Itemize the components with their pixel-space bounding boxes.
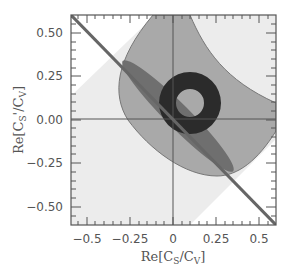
- x-axis-label: Re[CS/CV]: [141, 249, 206, 266]
- x-tick-label: −0.5: [72, 232, 101, 246]
- x-tick-label: 0.5: [249, 232, 268, 246]
- y-tick-label: 0.25: [36, 69, 63, 83]
- x-tick-label: −0.25: [112, 232, 149, 246]
- y-axis-label: Re[CS'/CV]: [11, 86, 28, 154]
- chart: −0.5 −0.25 0 0.25 0.5 0.50 0.25 0.00 −0.…: [0, 0, 291, 278]
- x-tick-label: 0: [169, 232, 177, 246]
- x-tick-label: 0.25: [203, 232, 230, 246]
- y-tick-label: −0.50: [26, 200, 63, 214]
- y-tick-label: −0.25: [26, 156, 63, 170]
- y-tick-label: 0.00: [36, 113, 63, 127]
- y-tick-label: 0.50: [36, 26, 63, 40]
- plot-area: [71, 15, 276, 225]
